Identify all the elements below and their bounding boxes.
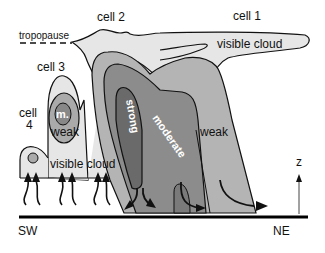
label-cell2: cell 2 bbox=[97, 10, 125, 24]
label-sw: SW bbox=[18, 224, 38, 238]
z-axis-arrowhead bbox=[296, 174, 302, 182]
label-weak-main: weak bbox=[199, 125, 229, 139]
label-visible-cloud-upper: visible cloud bbox=[217, 37, 282, 51]
label-cell3: cell 3 bbox=[37, 60, 65, 74]
label-ne: NE bbox=[273, 224, 290, 238]
label-m-core: m. bbox=[56, 108, 69, 120]
label-z: z bbox=[296, 155, 302, 169]
label-visible-cloud-lower: visible cloud bbox=[50, 157, 115, 171]
label-cell1: cell 1 bbox=[233, 9, 261, 23]
label-cell4-line2: 4 bbox=[26, 118, 33, 132]
label-tropopause: tropopause bbox=[19, 30, 69, 41]
updraft-arrows bbox=[24, 180, 110, 205]
label-weak-cell3: weak bbox=[50, 125, 80, 139]
cell4-core bbox=[28, 153, 38, 163]
thunderstorm-cross-section-diagram: cell 2 cell 1 tropopause visible cloud c… bbox=[0, 0, 325, 253]
